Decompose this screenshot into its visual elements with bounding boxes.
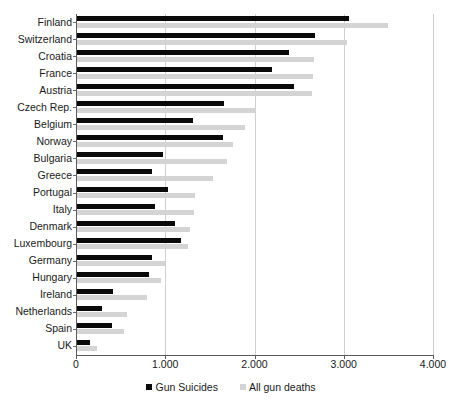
legend-label: Gun Suicides (155, 381, 217, 393)
bar-all-gun-deaths (76, 91, 312, 96)
bar-group-finland (76, 14, 433, 31)
legend-item-all-gun-deaths[interactable]: All gun deaths (240, 381, 316, 393)
category-label-switzerland: Switzerland (0, 34, 72, 45)
bar-group-italy (76, 202, 433, 219)
bar-group-france (76, 65, 433, 82)
bar-all-gun-deaths (76, 23, 388, 28)
bar-gun-suicides (76, 289, 113, 294)
bar-group-czech-rep (76, 99, 433, 116)
y-axis-line (76, 14, 77, 355)
bar-all-gun-deaths (76, 176, 213, 181)
category-label-austria: Austria (0, 85, 72, 96)
bar-gun-suicides (76, 238, 181, 243)
bar-all-gun-deaths (76, 312, 127, 317)
bar-gun-suicides (76, 187, 168, 192)
category-label-finland: Finland (0, 17, 72, 28)
category-label-denmark: Denmark (0, 221, 72, 232)
bar-all-gun-deaths (76, 278, 161, 283)
bar-rows (76, 14, 433, 355)
bar-all-gun-deaths (76, 210, 194, 215)
category-label-croatia: Croatia (0, 51, 72, 62)
bar-group-germany (76, 253, 433, 270)
x-axis-label-1000: 1.000 (152, 358, 178, 370)
bar-all-gun-deaths (76, 74, 313, 79)
category-label-belgium: Belgium (0, 119, 72, 130)
category-label-france: France (0, 68, 72, 79)
category-label-greece: Greece (0, 170, 72, 181)
bar-gun-suicides (76, 152, 163, 157)
bar-group-luxembourg (76, 236, 433, 253)
bar-all-gun-deaths (76, 57, 314, 62)
category-label-luxembourg: Luxembourg (0, 238, 72, 249)
category-label-uk: UK (0, 340, 72, 351)
bar-gun-suicides (76, 323, 112, 328)
category-label-hungary: Hungary (0, 272, 72, 283)
legend-swatch-all-gun-deaths (240, 384, 246, 390)
bar-all-gun-deaths (76, 244, 188, 249)
bar-gun-suicides (76, 255, 152, 260)
x-axis-label-2000: 2.000 (241, 358, 267, 370)
x-axis-label-3000: 3.000 (331, 358, 357, 370)
bar-group-portugal (76, 185, 433, 202)
bar-gun-suicides (76, 169, 152, 174)
category-label-bulgaria: Bulgaria (0, 153, 72, 164)
bar-gun-suicides (76, 272, 149, 277)
bar-group-uk (76, 338, 433, 355)
bar-all-gun-deaths (76, 227, 190, 232)
bar-all-gun-deaths (76, 108, 256, 113)
x-axis-label-0: 0 (73, 358, 79, 370)
category-label-portugal: Portugal (0, 187, 72, 198)
legend-item-gun-suicides[interactable]: Gun Suicides (146, 381, 217, 393)
bar-gun-suicides (76, 84, 294, 89)
x-axis-labels: 01.0002.0003.0004.000 (0, 358, 462, 374)
bar-gun-suicides (76, 306, 102, 311)
bar-all-gun-deaths (76, 40, 347, 45)
bar-group-bulgaria (76, 150, 433, 167)
category-label-spain: Spain (0, 323, 72, 334)
category-label-netherlands: Netherlands (0, 306, 72, 317)
gridline-4000 (433, 14, 434, 355)
bar-gun-suicides (76, 221, 175, 226)
bar-gun-suicides (76, 118, 193, 123)
bar-gun-suicides (76, 204, 155, 209)
category-axis-labels: FinlandSwitzerlandCroatiaFranceAustriaCz… (0, 14, 72, 355)
bar-group-croatia (76, 48, 433, 65)
bar-gun-suicides (76, 16, 349, 21)
bar-gun-suicides (76, 101, 224, 106)
plot-area (76, 14, 433, 355)
bar-group-greece (76, 167, 433, 184)
bar-group-belgium (76, 116, 433, 133)
category-label-ireland: Ireland (0, 289, 72, 300)
bar-gun-suicides (76, 50, 289, 55)
bar-group-netherlands (76, 304, 433, 321)
bar-gun-suicides (76, 33, 315, 38)
bar-group-spain (76, 321, 433, 338)
bar-gun-suicides (76, 67, 272, 72)
category-label-italy: Italy (0, 204, 72, 215)
bar-all-gun-deaths (76, 261, 165, 266)
bar-all-gun-deaths (76, 346, 97, 351)
x-axis-label-4000: 4.000 (420, 358, 446, 370)
bar-group-austria (76, 82, 433, 99)
bar-all-gun-deaths (76, 125, 245, 130)
bar-group-norway (76, 133, 433, 150)
bar-all-gun-deaths (76, 295, 147, 300)
bar-group-hungary (76, 270, 433, 287)
category-label-norway: Norway (0, 136, 72, 147)
bar-all-gun-deaths (76, 329, 124, 334)
bar-group-denmark (76, 219, 433, 236)
bar-all-gun-deaths (76, 159, 227, 164)
bar-chart: FinlandSwitzerlandCroatiaFranceAustriaCz… (0, 0, 462, 409)
bar-all-gun-deaths (76, 142, 233, 147)
category-label-germany: Germany (0, 255, 72, 266)
chart-legend: Gun SuicidesAll gun deaths (0, 381, 462, 393)
bar-group-ireland (76, 287, 433, 304)
category-label-czech-rep: Czech Rep. (0, 102, 72, 113)
bar-gun-suicides (76, 340, 90, 345)
bar-all-gun-deaths (76, 193, 195, 198)
bar-gun-suicides (76, 135, 223, 140)
legend-swatch-gun-suicides (146, 384, 152, 390)
legend-label: All gun deaths (249, 381, 316, 393)
bar-group-switzerland (76, 31, 433, 48)
